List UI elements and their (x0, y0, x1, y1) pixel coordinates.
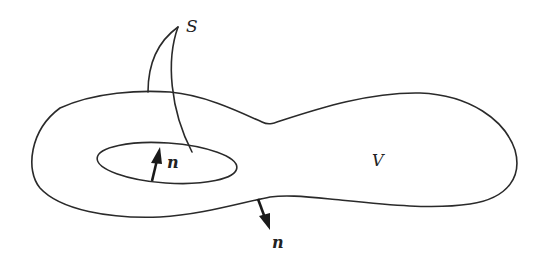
outer-boundary-curve (32, 91, 517, 217)
label-volume: V (372, 151, 385, 170)
leader-line-inner (171, 27, 192, 152)
label-normal-outer: n (272, 233, 284, 252)
label-normal-inner: n (167, 153, 179, 172)
normal-arrow-inner-icon (151, 147, 162, 181)
normal-arrow-outer-icon (258, 199, 270, 230)
label-surface: S (186, 16, 198, 36)
leader-line-outer (148, 27, 178, 92)
diagram-canvas: S V n n (0, 0, 543, 256)
